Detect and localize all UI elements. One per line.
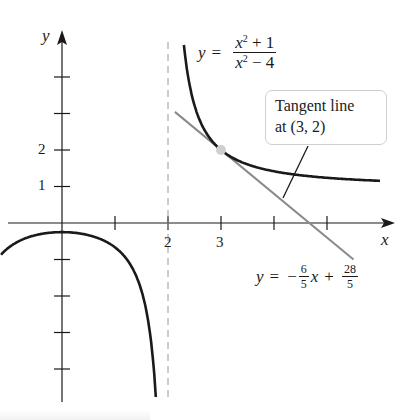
- curve-left-branch: [1, 232, 156, 397]
- callout-pointer: [283, 146, 308, 198]
- intercept-num: 28: [342, 263, 358, 277]
- slope-num: 6: [299, 263, 309, 277]
- tangent-minus: −: [287, 268, 297, 285]
- function-label: y = x2 + 1 x2 − 4: [198, 34, 278, 71]
- tangent-equation-label: y = − 6 5 x + 28 5: [256, 263, 360, 290]
- x-axis-label: x: [381, 231, 389, 248]
- y-tick-label-1: 1: [38, 178, 46, 193]
- tangent-lhs: y: [256, 268, 264, 285]
- den-rest: − 4: [248, 53, 275, 72]
- tangent-point: [216, 145, 226, 155]
- tangent-eq: =: [270, 268, 280, 285]
- x-tick-label-2: 2: [164, 235, 172, 250]
- slope-fraction: 6 5: [299, 263, 309, 290]
- den-x: x: [235, 53, 243, 72]
- callout-line-1: Tangent line: [275, 95, 386, 116]
- function-label-lhs: y: [198, 44, 206, 61]
- num-x: x: [235, 33, 243, 52]
- figure-caption-cropped: [0, 410, 150, 420]
- tangent-plus: +: [324, 268, 334, 285]
- num-rest: + 1: [248, 33, 275, 52]
- y-tick-label-2: 2: [38, 142, 46, 157]
- intercept-den: 5: [345, 277, 355, 290]
- x-tick-label-3: 3: [216, 235, 224, 250]
- callout-line-2: at (3, 2): [275, 116, 386, 137]
- axes: [8, 30, 395, 402]
- intercept-fraction: 28 5: [342, 263, 358, 290]
- slope-den: 5: [299, 277, 309, 290]
- tangent-x: x: [311, 268, 319, 285]
- function-label-eq: =: [212, 44, 222, 61]
- function-fraction: x2 + 1 x2 − 4: [233, 34, 276, 71]
- tangent-callout: Tangent line at (3, 2): [265, 90, 387, 145]
- y-axis-label: y: [42, 27, 50, 44]
